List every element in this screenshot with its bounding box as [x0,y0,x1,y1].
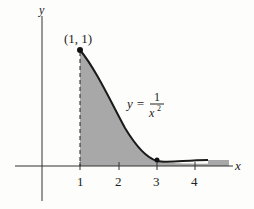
y-axis-label: y [38,3,45,17]
tick-label-1: 1 [77,174,84,189]
equation-exponent: 2 [157,104,161,113]
equation-lhs: y = [125,96,145,111]
shaded-area [80,50,229,166]
x-axis-label: x [234,158,241,173]
point-1-1 [77,47,83,53]
tick-label-2: 2 [115,174,122,189]
tick-label-4: 4 [191,174,198,189]
graph: 1 2 3 4 x y (1, 1) y = 1 x 2 [0,0,254,209]
tick-label-3: 3 [153,174,160,189]
equation-numerator: 1 [154,90,160,104]
equation-denominator: x [148,106,155,120]
shade-tail [208,160,229,166]
point-3 [155,158,160,163]
point-label: (1, 1) [64,31,92,46]
